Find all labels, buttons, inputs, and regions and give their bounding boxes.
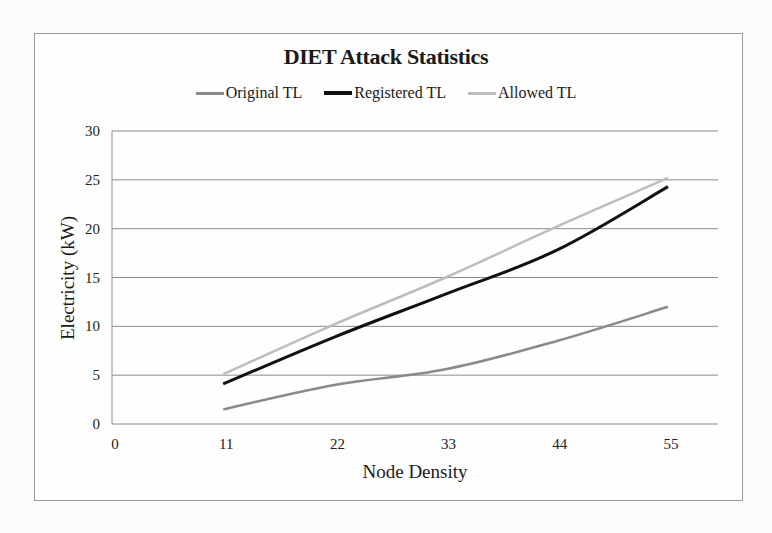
data-series (223, 178, 668, 409)
x-tick-label: 33 (441, 436, 456, 452)
x-tick-label: 44 (552, 436, 568, 452)
y-tick-label: 15 (85, 270, 100, 286)
y-tick-label: 10 (85, 318, 100, 334)
x-tick-label: 0 (111, 436, 119, 452)
y-tick-label: 20 (85, 221, 100, 237)
series-line-registered-tl (223, 187, 668, 384)
x-axis-title: Node Density (362, 461, 468, 482)
y-tick-label: 30 (85, 123, 100, 139)
gridlines (112, 131, 718, 424)
y-tick-label: 25 (85, 172, 100, 188)
series-line-allowed-tl (223, 178, 668, 374)
x-tick-label: 22 (330, 436, 345, 452)
y-tick-label: 5 (93, 367, 101, 383)
x-axis-ticks: 01122334455 (111, 436, 678, 452)
series-line-original-tl (223, 307, 668, 410)
x-tick-label: 11 (219, 436, 233, 452)
x-tick-label: 55 (664, 436, 679, 452)
plot-area: 051015202530 01122334455 Node Density El… (0, 0, 772, 533)
y-axis-title: Electricity (kW) (57, 216, 79, 340)
y-axis-ticks: 051015202530 (85, 123, 100, 432)
y-tick-label: 0 (93, 416, 101, 432)
